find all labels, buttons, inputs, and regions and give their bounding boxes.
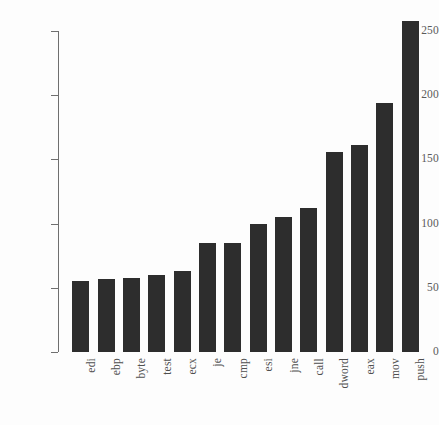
x-tick-label: je (212, 358, 224, 367)
bar (376, 103, 393, 352)
bar (250, 224, 267, 352)
bar (402, 21, 419, 352)
bar (174, 271, 191, 352)
x-tick-label: eax (365, 358, 377, 375)
bar-chart: 050100150200250 ediebpbytetestecxjecmpes… (0, 0, 439, 425)
x-tick-label: edi (86, 358, 98, 373)
bar (148, 275, 165, 352)
x-tick-label: jne (289, 358, 301, 373)
x-tick-label: dword (339, 358, 351, 388)
x-tick-label: ecx (187, 358, 199, 375)
y-axis-line (58, 31, 59, 352)
bar (300, 208, 317, 352)
bar (98, 279, 115, 352)
bar (275, 217, 292, 352)
bar (199, 243, 216, 352)
bar (326, 152, 343, 352)
bar (123, 278, 140, 352)
x-tick-label: test (162, 358, 174, 375)
x-tick-label: mov (390, 358, 402, 379)
x-tick-label: cmp (238, 358, 250, 378)
x-tick-label: ebp (111, 358, 123, 375)
x-tick-label: call (314, 358, 326, 375)
bar (72, 281, 89, 352)
y-tick-mark (51, 224, 58, 225)
x-tick-label: byte (136, 358, 148, 379)
y-tick-mark (51, 352, 58, 353)
bar (351, 145, 368, 352)
x-tick-label: esi (263, 358, 275, 371)
x-tick-label: push (415, 358, 427, 381)
y-tick-mark (51, 159, 58, 160)
y-tick-mark (51, 288, 58, 289)
bar (224, 243, 241, 352)
y-tick-mark (51, 95, 58, 96)
chart-page: 050100150200250 ediebpbytetestecxjecmpes… (0, 0, 439, 425)
y-tick-mark (51, 31, 58, 32)
